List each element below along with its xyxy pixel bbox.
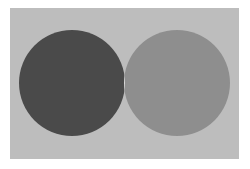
right-circle	[124, 30, 230, 136]
venn-diagram	[0, 0, 250, 169]
left-circle	[19, 30, 125, 136]
